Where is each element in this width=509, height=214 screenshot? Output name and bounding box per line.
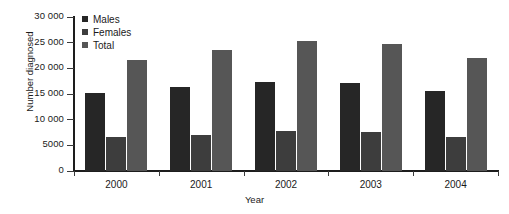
x-tick-mark: [498, 171, 499, 176]
x-tick-label: 2002: [256, 179, 316, 190]
legend-label: Total: [93, 40, 114, 51]
y-tick-mark: [67, 42, 74, 43]
y-tick-mark: [67, 171, 74, 172]
bar-males-2003: [340, 83, 360, 171]
legend-item-females: Females: [82, 26, 131, 38]
bar-females-2001: [191, 135, 211, 171]
x-tick-mark: [159, 171, 160, 176]
y-tick-mark: [67, 119, 74, 120]
y-tick-mark: [67, 68, 74, 69]
bar-total-2004: [467, 58, 487, 171]
legend-swatch-icon: [82, 42, 88, 48]
bar-chart: 0500010 00015 00020 00025 00030 000 2000…: [0, 0, 509, 214]
x-tick-label: 2000: [86, 179, 146, 190]
x-tick-mark: [74, 171, 75, 176]
bar-males-2002: [255, 82, 275, 171]
x-tick-label: 2003: [341, 179, 401, 190]
legend-label: Males: [93, 14, 120, 25]
legend-item-males: Males: [82, 13, 131, 25]
y-axis-title: Number diagnosed: [24, 12, 35, 132]
y-tick-label: 0: [2, 164, 64, 175]
legend-label: Females: [93, 27, 131, 38]
bar-total-2003: [382, 44, 402, 171]
x-tick-label: 2001: [171, 179, 231, 190]
x-tick-mark: [244, 171, 245, 176]
y-tick-label: 5000: [2, 138, 64, 149]
bar-males-2004: [425, 91, 445, 171]
bar-total-2000: [127, 60, 147, 171]
bar-males-2001: [170, 87, 190, 171]
y-tick-mark: [67, 17, 74, 18]
x-axis-title: Year: [0, 194, 509, 205]
chart-legend: MalesFemalesTotal: [82, 13, 131, 51]
legend-item-total: Total: [82, 39, 131, 51]
bar-females-2003: [361, 132, 381, 171]
bar-females-2004: [446, 137, 466, 171]
bar-females-2000: [106, 137, 126, 171]
legend-swatch-icon: [82, 16, 88, 22]
bar-total-2001: [212, 50, 232, 171]
x-tick-mark: [328, 171, 329, 176]
bar-total-2002: [297, 41, 317, 171]
y-tick-mark: [67, 94, 74, 95]
x-tick-mark: [413, 171, 414, 176]
legend-swatch-icon: [82, 29, 88, 35]
y-tick-mark: [67, 145, 74, 146]
bar-males-2000: [85, 93, 105, 171]
bar-females-2002: [276, 131, 296, 171]
plot-area: [74, 17, 498, 171]
x-tick-label: 2004: [426, 179, 486, 190]
